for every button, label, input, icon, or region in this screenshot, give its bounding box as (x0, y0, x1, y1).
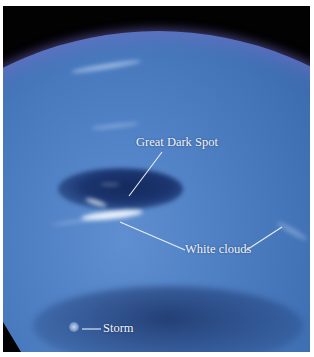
space-corner (3, 322, 21, 352)
label-storm: Storm (103, 321, 134, 336)
great-dark-spot (58, 168, 183, 210)
label-white-clouds: White clouds (185, 242, 251, 257)
small-storm (69, 322, 79, 332)
label-great-dark-spot: Great Dark Spot (136, 135, 218, 150)
neptune-photo (3, 6, 310, 352)
